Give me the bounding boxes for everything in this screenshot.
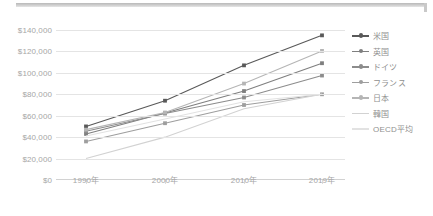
data-point-marker (242, 63, 246, 67)
x-axis-tick-label: 1990年 (73, 174, 99, 185)
data-point-marker (163, 111, 167, 115)
plot-area (56, 30, 345, 180)
y-axis-tick-label: $140,000 (18, 26, 52, 35)
y-axis-tick-label: $120,000 (18, 47, 52, 56)
data-point-marker (242, 96, 246, 100)
legend-item[interactable]: 米国 (352, 28, 433, 44)
y-axis-tick-label: $40,000 (22, 133, 52, 142)
series-line (86, 94, 322, 158)
gridline (56, 116, 345, 117)
legend-item[interactable]: ドイツ (352, 59, 433, 75)
top-divider-bar (16, 3, 426, 7)
legend-item[interactable]: 英国 (352, 44, 433, 60)
y-axis-tick-label: $80,000 (22, 90, 52, 99)
data-point-marker (320, 61, 324, 65)
legend-marker-icon (352, 47, 369, 56)
x-axis-tick-label: 2010年 (231, 174, 257, 185)
chart-legend: 米国英国ドイツフランス日本韓国OECD平均 (352, 28, 433, 137)
top-divider-cap (424, 3, 427, 12)
gridline (56, 30, 345, 31)
y-axis-tick-label: $20,000 (22, 154, 52, 163)
data-point-marker (163, 121, 167, 125)
legend-item[interactable]: OECD平均 (352, 121, 433, 137)
y-axis-tick-label: $100,000 (18, 68, 52, 77)
legend-marker-icon (352, 93, 369, 102)
gridline (56, 51, 345, 52)
gridline (56, 73, 345, 74)
data-point-marker (84, 128, 88, 132)
y-axis-labels: $0$20,000$40,000$60,000$80,000$100,000$1… (0, 30, 52, 180)
series-line (86, 51, 322, 130)
data-point-marker (242, 89, 246, 93)
x-axis-tick-label: 2000年 (152, 174, 178, 185)
legend-marker-icon (352, 62, 369, 71)
y-axis-tick-label: $60,000 (22, 111, 52, 120)
data-point-marker (242, 82, 246, 86)
data-point-marker (163, 99, 167, 103)
legend-marker-icon (352, 31, 369, 40)
gridline (56, 159, 345, 160)
gridline (56, 94, 345, 95)
legend-marker-icon (352, 78, 369, 87)
legend-item-label: OECD平均 (373, 123, 413, 134)
legend-item[interactable]: 韓国 (352, 106, 433, 122)
chart-screenshot: $0$20,000$40,000$60,000$80,000$100,000$1… (0, 0, 433, 216)
legend-item-label: ドイツ (373, 61, 398, 72)
data-point-marker (242, 103, 246, 107)
legend-item-label: 英国 (373, 46, 389, 57)
series-lines (56, 30, 345, 180)
legend-item-label: 米国 (373, 30, 389, 41)
series-line (86, 35, 322, 126)
y-axis-tick-label: $0 (43, 176, 52, 185)
legend-item-label: フランス (373, 77, 406, 88)
data-point-marker (84, 140, 88, 144)
x-axis-tick-label: 2019年 (309, 174, 335, 185)
data-point-marker (320, 33, 324, 37)
legend-item-label: 韓国 (373, 108, 389, 119)
x-axis-line (56, 179, 345, 180)
legend-marker-icon (352, 124, 369, 133)
legend-marker-icon (352, 109, 369, 118)
legend-item-label: 日本 (373, 92, 389, 103)
gridline (56, 137, 345, 138)
legend-item[interactable]: フランス (352, 75, 433, 91)
data-point-marker (320, 74, 324, 78)
legend-item[interactable]: 日本 (352, 90, 433, 106)
